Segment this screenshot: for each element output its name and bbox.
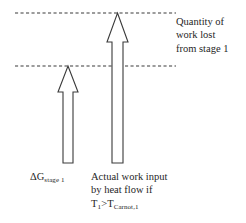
work-lost-line-3: from stage 1: [176, 42, 246, 55]
delta-g-symbol: ΔG: [30, 171, 44, 182]
actual-work-caption: Actual work input by heat flow if T1>TCa…: [91, 170, 195, 211]
temperature-condition: T1>TCarnot,1: [91, 197, 195, 211]
actual-work-line-1: Actual work input: [91, 170, 195, 183]
work-lost-line-2: work lost: [176, 28, 246, 41]
diagram-text-layer: Quantity of work lost from stage 1 ΔGsta…: [0, 0, 246, 223]
temperature-rhs-subscript: Carnot,1: [114, 202, 139, 209]
actual-work-line-2: by heat flow if: [91, 183, 195, 196]
work-lost-caption: Quantity of work lost from stage 1: [176, 15, 246, 55]
delta-g-subscript: stage 1: [44, 176, 64, 183]
work-lost-line-1: Quantity of: [176, 15, 246, 28]
delta-g-label: ΔGstage 1: [30, 170, 64, 184]
thermodynamic-work-diagram: Quantity of work lost from stage 1 ΔGsta…: [0, 0, 246, 223]
